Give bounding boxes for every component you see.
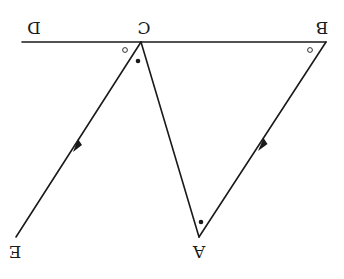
angle-mark-b-open-circle-icon <box>308 48 313 53</box>
label-e: E <box>9 242 21 262</box>
geometry-figure: D C B A E <box>0 0 344 279</box>
label-b: B <box>316 18 329 38</box>
angle-mark-c-dot-icon <box>136 59 141 64</box>
segment-ca <box>141 42 199 237</box>
triangle-diagram: D C B A E <box>0 0 344 279</box>
angle-mark-c-open-circle-icon <box>123 48 128 53</box>
ray-ce <box>16 42 141 237</box>
label-a: A <box>192 242 206 262</box>
label-c: C <box>137 18 150 38</box>
segment-ba <box>199 42 326 237</box>
angle-mark-a-dot-icon <box>199 220 204 225</box>
label-d: D <box>27 18 41 38</box>
